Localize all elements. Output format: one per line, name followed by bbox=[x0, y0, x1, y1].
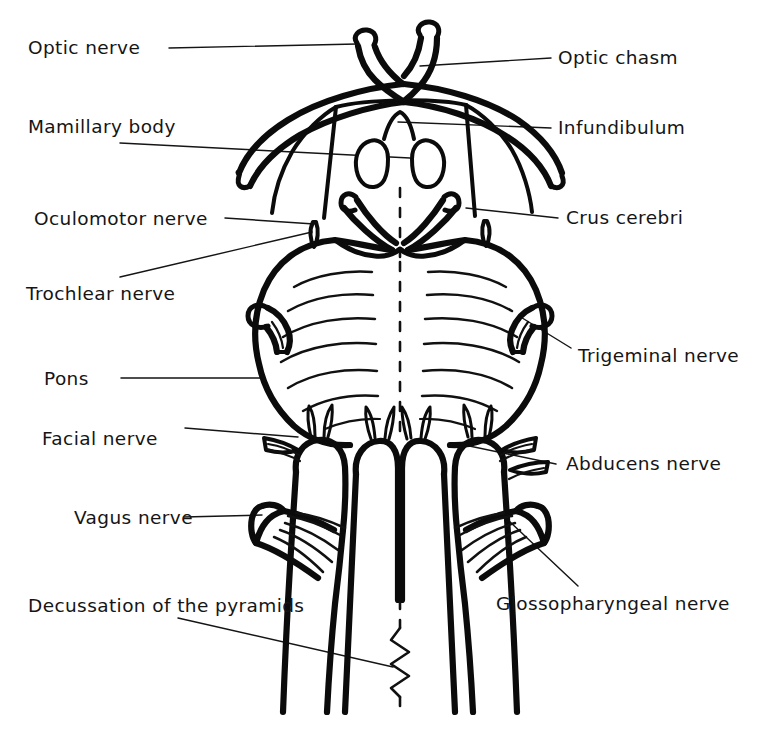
leader-facial-nerve bbox=[185, 428, 298, 437]
label-glossopharyngeal-nerve: Glossopharyngeal nerve bbox=[496, 593, 730, 614]
vagus-nerve-right bbox=[455, 505, 549, 578]
mamillary-body-left bbox=[356, 140, 388, 187]
label-pons: Pons bbox=[44, 368, 89, 389]
decussation-of-the-pyramids bbox=[391, 600, 409, 716]
leader-optic-nerve bbox=[169, 44, 357, 48]
labels: Optic nerve Optic chasm Mamillary body I… bbox=[25, 37, 739, 616]
label-trochlear-nerve: Trochlear nerve bbox=[25, 283, 175, 304]
leader-optic-chasm bbox=[420, 58, 551, 66]
vagus-nerve-left bbox=[251, 505, 345, 578]
facial-nerve bbox=[264, 438, 300, 461]
leader-crus-cerebri bbox=[466, 208, 558, 218]
label-decussation-of-the-pyramids: Decussation of the pyramids bbox=[28, 595, 304, 616]
leader-trochlear-nerve bbox=[120, 232, 312, 277]
label-facial-nerve: Facial nerve bbox=[42, 428, 158, 449]
brainstem-diagram: Optic nerve Optic chasm Mamillary body I… bbox=[0, 0, 769, 740]
leader-oculomotor-nerve bbox=[225, 218, 314, 224]
label-trigeminal-nerve: Trigeminal nerve bbox=[577, 345, 739, 366]
mamillary-body-right bbox=[412, 140, 444, 187]
vagus-rootlet-fan-left bbox=[274, 513, 345, 572]
label-crus-cerebri: Crus cerebri bbox=[566, 207, 683, 228]
label-mamillary-body: Mamillary body bbox=[28, 116, 176, 137]
label-optic-chasm: Optic chasm bbox=[558, 47, 678, 68]
label-vagus-nerve: Vagus nerve bbox=[74, 507, 193, 528]
label-optic-nerve: Optic nerve bbox=[28, 37, 140, 58]
label-oculomotor-nerve: Oculomotor nerve bbox=[34, 208, 208, 229]
vagus-rootlet-fan-right bbox=[455, 513, 526, 572]
infundibulum bbox=[384, 112, 414, 139]
label-infundibulum: Infundibulum bbox=[558, 117, 685, 138]
abducens-nerve bbox=[500, 438, 536, 461]
glossopharyngeal-nerve bbox=[509, 462, 548, 479]
label-abducens-nerve: Abducens nerve bbox=[566, 453, 721, 474]
